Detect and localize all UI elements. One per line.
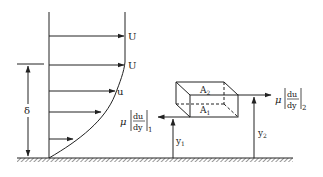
- shear-label-top: μ du dy 2: [275, 88, 306, 112]
- svg-text:du: du: [287, 90, 297, 99]
- velocity-arrows: [49, 36, 124, 139]
- svg-text:dy: dy: [133, 123, 143, 132]
- label-delta: δ: [24, 105, 30, 116]
- label-free-stream-edge: U: [128, 60, 136, 71]
- svg-text:dy: dy: [287, 101, 297, 110]
- label-free-stream-top: U: [128, 31, 136, 42]
- label-y2: y2: [257, 128, 267, 139]
- svg-text:du: du: [133, 112, 143, 121]
- svg-text:μ: μ: [275, 94, 282, 105]
- boundary-layer-diagram: U U u δ A2 A1 μ du dy: [0, 0, 323, 177]
- label-local-velocity: u: [117, 86, 124, 97]
- ground-surface: [17, 158, 293, 162]
- svg-text:1: 1: [148, 126, 152, 134]
- svg-text:μ: μ: [120, 116, 127, 127]
- svg-text:2: 2: [302, 104, 306, 112]
- label-y1: y1: [175, 136, 185, 147]
- shear-label-bottom: μ du dy 1: [120, 110, 152, 134]
- label-area-bottom: A1: [199, 105, 210, 116]
- label-area-top: A2: [199, 85, 211, 96]
- velocity-profile-curve: [49, 12, 125, 158]
